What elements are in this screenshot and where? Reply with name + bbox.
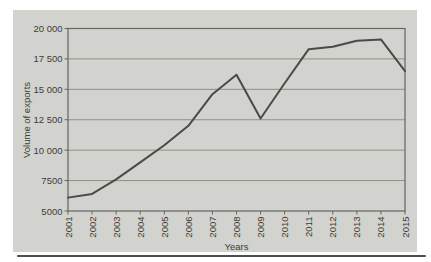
y-tick-label: 20 000 [33, 23, 62, 34]
x-axis-title: Years [68, 241, 405, 252]
y-tick-label: 10 000 [33, 145, 62, 156]
x-tick-label: 2004 [135, 217, 146, 238]
x-tick-label: 2001 [63, 217, 74, 238]
x-tick-label: 2002 [87, 217, 98, 238]
x-tick-label: 2009 [255, 217, 266, 238]
y-tick-label: 5000 [41, 206, 62, 217]
y-tick-label: 7500 [41, 175, 62, 186]
x-tick-label: 2013 [351, 217, 362, 238]
exports-line-chart: 5000750010 00012 50015 00017 50020 00020… [13, 10, 417, 252]
y-tick-label: 15 000 [33, 84, 62, 95]
y-tick-label: 17 500 [33, 53, 62, 64]
x-tick-label: 2014 [375, 217, 386, 238]
figure-page: 5000750010 00012 50015 00017 50020 00020… [0, 0, 431, 262]
x-tick-label: 2005 [159, 217, 170, 238]
y-axis-title: Volume of exports [21, 82, 32, 158]
exports-chart-figure: 5000750010 00012 50015 00017 50020 00020… [13, 10, 417, 252]
x-tick-label: 2011 [303, 217, 314, 237]
x-tick-label: 2007 [207, 217, 218, 238]
x-tick-label: 2010 [279, 217, 290, 238]
x-tick-label: 2015 [400, 217, 411, 238]
figure-bottom-rule [17, 255, 426, 257]
x-tick-label: 2006 [183, 217, 194, 238]
x-tick-label: 2012 [327, 217, 338, 238]
x-tick-label: 2008 [231, 217, 242, 238]
x-tick-label: 2003 [111, 217, 122, 238]
y-tick-label: 12 500 [33, 114, 62, 125]
